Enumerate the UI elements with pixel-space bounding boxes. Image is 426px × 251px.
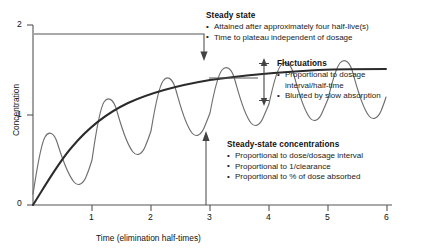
list-item: • Proportional to dosage interval/half-t…	[277, 70, 381, 91]
list-item: • Time to plateau independent of dosage	[206, 33, 369, 44]
x-tick-6: 6	[384, 212, 389, 222]
x-axis-title: Time (elimination half-times)	[96, 233, 201, 243]
annotation-steady-state-list: • Attained after approximately four half…	[206, 22, 369, 43]
bullet-icon: •	[277, 70, 280, 81]
bullet-icon: •	[206, 32, 209, 43]
annotation-steady-state-concentrations: Steady-state concentrations • Proportion…	[227, 140, 363, 183]
list-item: • Blunted by slow absorption	[277, 91, 381, 102]
annotation-fluctuations-title: Fluctuations	[277, 59, 381, 68]
list-item-label-continued: interval/half-time	[285, 81, 381, 92]
annotation-steady-state-title: Steady state	[206, 11, 369, 20]
list-item: • Proportional to 1/clearance	[227, 162, 363, 173]
bullet-icon: •	[227, 161, 230, 172]
list-item-label: Blunted by slow absorption	[285, 91, 381, 100]
annotation-fluctuations: Fluctuations • Proportional to dosage in…	[277, 59, 381, 102]
annotation-steady-state: Steady state • Attained after approximat…	[206, 11, 369, 43]
x-tick-5: 5	[325, 212, 330, 222]
y-tick-0: 0	[17, 198, 22, 208]
x-tick-2: 2	[148, 212, 153, 222]
list-item-label: Time to plateau independent of dosage	[214, 33, 352, 42]
bullet-icon: •	[277, 91, 280, 102]
annotation-ss-conc-list: • Proportional to dose/dosage interval •…	[227, 151, 363, 183]
x-tick-4: 4	[266, 212, 271, 222]
steady-state-arrow	[34, 34, 208, 61]
list-item-label: Attained after approximately four half-l…	[214, 22, 369, 31]
list-item: • Attained after approximately four half…	[206, 22, 369, 33]
fluctuations-arrow	[259, 58, 269, 106]
bullet-icon: •	[206, 22, 209, 33]
y-tick-2: 2	[17, 19, 22, 29]
annotation-fluctuations-list: • Proportional to dosage interval/half-t…	[277, 70, 381, 102]
list-item-label: Proportional to % of dose absorbed	[235, 172, 360, 181]
y-axis-title: Concentration	[11, 70, 21, 150]
x-tick-1: 1	[89, 212, 94, 222]
list-item-label: Proportional to dose/dosage interval	[235, 151, 363, 160]
annotation-ss-conc-title: Steady-state concentrations	[227, 140, 363, 149]
bullet-icon: •	[227, 172, 230, 183]
x-tick-3: 3	[207, 212, 212, 222]
list-item: • Proportional to dose/dosage interval	[227, 151, 363, 162]
list-item-label: Proportional to dosage	[285, 70, 366, 79]
ss-concentration-arrow	[202, 131, 209, 205]
bullet-icon: •	[227, 151, 230, 162]
list-item-label: Proportional to 1/clearance	[235, 162, 331, 171]
list-item: • Proportional to % of dose absorbed	[227, 172, 363, 183]
